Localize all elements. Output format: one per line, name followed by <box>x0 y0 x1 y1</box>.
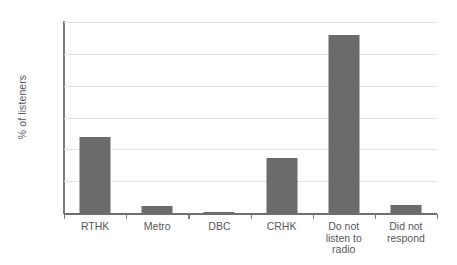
x-axis-tick <box>437 214 438 219</box>
plot-area <box>64 22 437 213</box>
bar[interactable] <box>390 205 421 213</box>
bar[interactable] <box>80 137 111 213</box>
bar-slot <box>64 22 126 213</box>
bar[interactable] <box>328 35 359 213</box>
x-tick-label: Metro <box>126 221 188 233</box>
x-axis-tick <box>64 214 65 219</box>
x-tick-label: CRHK <box>251 221 313 233</box>
x-axis-tick <box>375 214 376 219</box>
bar[interactable] <box>204 212 235 213</box>
x-tick-label: RTHK <box>64 221 126 233</box>
y-axis-title-text: % of listeners <box>16 74 28 138</box>
x-axis-tick <box>313 214 314 219</box>
bar[interactable] <box>266 158 297 213</box>
x-axis-tick <box>251 214 252 219</box>
y-axis-title: % of listeners <box>13 0 31 213</box>
x-tick-label: DBC <box>188 221 250 233</box>
x-axis-tick <box>126 214 127 219</box>
bar[interactable] <box>142 206 173 213</box>
bar-slot <box>126 22 188 213</box>
x-axis-tick <box>188 214 189 219</box>
bar-chart: % of listeners 0102030405060 RTHKMetroDB… <box>0 0 457 265</box>
x-tick-label: Do not listen to radio <box>313 221 375 256</box>
bar-series <box>64 22 437 213</box>
bar-slot <box>251 22 313 213</box>
bar-slot <box>375 22 437 213</box>
x-tick-label: Did not respond <box>375 221 437 244</box>
bar-slot <box>313 22 375 213</box>
bar-slot <box>188 22 250 213</box>
